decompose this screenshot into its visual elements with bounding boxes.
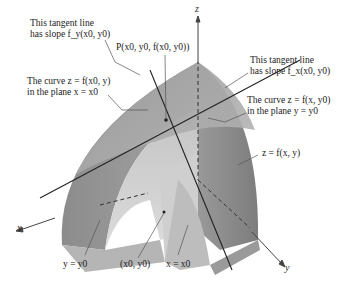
label-curve-y0: The curve z = f(x, y0) in the plane y = … <box>247 95 330 117</box>
z-axis-label: z <box>195 3 199 14</box>
label-curve-x0: The curve z = f(x0, y) in the plane x = … <box>27 76 110 98</box>
label-base-point: (x0, y0) <box>120 259 150 270</box>
y-axis-label: y <box>285 262 289 273</box>
x-axis <box>20 218 55 230</box>
label-surface: z = f(x, y) <box>262 148 300 159</box>
label-plane-y: y = y0 <box>63 259 87 270</box>
label-tangent-fy: This tangent line has slope f_y(x0, y0) <box>30 18 110 40</box>
label-plane-x: x = x0 <box>166 259 190 270</box>
point-P <box>164 118 168 122</box>
x-axis-label: x <box>17 222 21 233</box>
label-tangent-fx: This tangent line has slope f_x(x0, y0) <box>250 55 330 77</box>
label-point-P: P(x0, y0, f(x0, y0)) <box>116 42 189 53</box>
